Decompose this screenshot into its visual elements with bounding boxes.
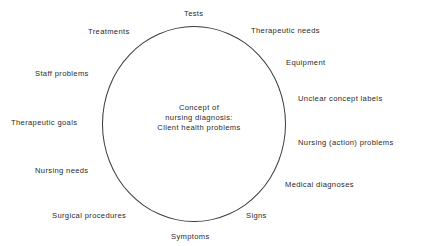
label-medical-diagnoses: Medical diagnoses: [285, 181, 354, 189]
label-therapeutic-goals: Therapeutic goals: [11, 119, 77, 127]
center-line-3: Client health problems: [134, 123, 264, 133]
label-treatments: Treatments: [88, 28, 130, 36]
label-signs: Signs: [246, 212, 267, 220]
center-concept-label: Concept of nursing diagnosis: Client hea…: [134, 103, 264, 133]
center-line-1: Concept of: [134, 103, 264, 113]
label-nursing-needs: Nursing needs: [35, 167, 89, 175]
label-surgical-procedures: Surgical procedures: [52, 212, 126, 220]
label-unclear-concept-labels: Unclear concept labels: [298, 95, 383, 103]
label-tests: Tests: [184, 10, 203, 18]
label-staff-problems: Staff problems: [35, 70, 89, 78]
label-therapeutic-needs: Therapeutic needs: [251, 27, 320, 35]
center-line-2: nursing diagnosis:: [134, 113, 264, 123]
label-nursing-action-problems: Nursing (action) problems: [298, 139, 394, 147]
label-symptoms: Symptoms: [171, 233, 210, 241]
label-equipment: Equipment: [286, 59, 325, 67]
